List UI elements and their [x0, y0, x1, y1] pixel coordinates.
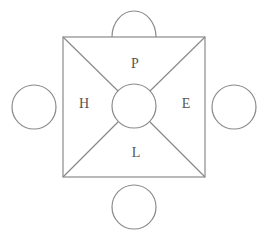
left-seat-circle: [12, 85, 56, 129]
label-bottom: L: [132, 145, 141, 160]
diagonal-bottom-left: [63, 122, 118, 177]
right-seat-circle: [212, 85, 256, 129]
center-circle: [112, 84, 156, 128]
diagonal-bottom-right: [150, 122, 205, 177]
label-left: H: [79, 96, 89, 111]
label-top: P: [131, 56, 139, 71]
top-seat-semicircle: [112, 11, 156, 37]
bottom-seat-circle: [112, 185, 156, 229]
diagonal-top-right: [150, 37, 205, 91]
diagonal-top-left: [63, 37, 118, 91]
label-right: E: [182, 96, 191, 111]
table-diagram: P H E L: [0, 0, 266, 238]
